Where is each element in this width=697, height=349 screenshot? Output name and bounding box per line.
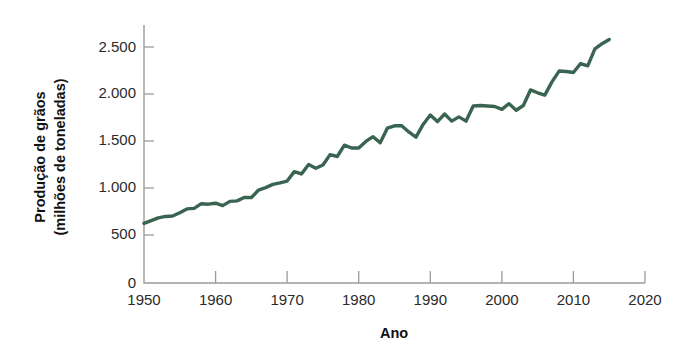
x-tick-label-2020: 2020 bbox=[628, 291, 661, 308]
grain-production-line bbox=[144, 39, 609, 223]
x-tick-label-1970: 1970 bbox=[270, 291, 303, 308]
y-tick-label-2500: 2.500 bbox=[98, 38, 136, 55]
x-tick-label-1990: 1990 bbox=[414, 291, 447, 308]
y-tick-label-1000: 1.000 bbox=[98, 178, 136, 195]
x-tick-label-1950: 1950 bbox=[127, 291, 160, 308]
line-chart: Produção de grãos (milhões de toneladas)… bbox=[0, 0, 697, 349]
y-tick-label-1500: 1.500 bbox=[98, 131, 136, 148]
x-tick-label-2000: 2000 bbox=[485, 291, 518, 308]
x-tick-labels: 1950 1960 1970 1980 1990 2000 2010 2020 bbox=[127, 291, 661, 308]
x-axis-title: Ano bbox=[380, 325, 408, 341]
y-tick-label-500: 500 bbox=[111, 225, 136, 242]
x-tick-label-1980: 1980 bbox=[342, 291, 375, 308]
y-tick-label-0: 0 bbox=[128, 274, 136, 291]
y-axis-title-line1: Produção de grãos bbox=[32, 91, 48, 222]
y-tick-label-2000: 2.000 bbox=[98, 84, 136, 101]
y-tick-labels: 2.500 2.000 1.500 1.000 500 0 bbox=[98, 38, 136, 291]
y-tick-marks bbox=[144, 47, 154, 235]
x-tick-label-1960: 1960 bbox=[199, 291, 232, 308]
y-axis-title: Produção de grãos (milhões de toneladas) bbox=[32, 78, 68, 235]
chart-figure: Produção de grãos (milhões de toneladas)… bbox=[0, 0, 697, 349]
x-tick-marks bbox=[216, 271, 645, 283]
y-axis-title-line2: (milhões de toneladas) bbox=[52, 78, 68, 235]
axis-spines bbox=[144, 25, 645, 283]
x-tick-label-2010: 2010 bbox=[557, 291, 590, 308]
